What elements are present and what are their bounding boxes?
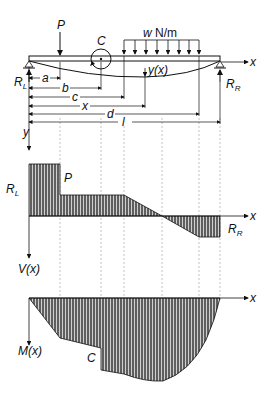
moment-x-axis-label: x — [249, 291, 257, 305]
shear-point-load-label: P — [64, 171, 72, 185]
distributed-load — [124, 40, 199, 54]
dim-l-label: l — [122, 115, 125, 129]
left-reaction-label: RL — [14, 75, 27, 91]
dim-b-label: b — [62, 81, 69, 95]
moment-couple-label: C — [87, 351, 96, 365]
couple-label: C — [97, 34, 106, 48]
shear-y-axis-label: V(x) — [18, 262, 40, 276]
left-support — [23, 61, 35, 82]
beam-diagram: a b c x d l P C w N/m y(x) x y RL RR RL … — [0, 0, 269, 400]
shear-right-reaction-label: RR — [228, 222, 243, 238]
moment-y-axis-label: M(x) — [18, 344, 42, 358]
dim-x-label: x — [81, 99, 89, 113]
beam-y-axis-label: y — [22, 125, 30, 139]
dim-a-label: a — [42, 71, 49, 85]
dim-c-label: c — [72, 90, 78, 104]
shear-left-reaction-label: RL — [6, 182, 19, 198]
dimension-lines — [29, 56, 220, 124]
dim-d-label: d — [107, 107, 114, 121]
point-load-label: P — [57, 18, 65, 32]
shear-x-axis-label: x — [249, 209, 257, 223]
load-w-label: w — [143, 26, 153, 40]
right-reaction-label: RR — [226, 77, 241, 93]
beam-x-axis-label: x — [249, 55, 257, 69]
moment-diagram: x M(x) C — [18, 291, 257, 381]
beam: a b c x d l P C w N/m y(x) x y RL RR — [14, 18, 257, 150]
load-units-label: N/m — [155, 26, 177, 40]
deflection-label: y(x) — [147, 63, 168, 77]
shear-diagram: RL P x RR V(x) — [6, 164, 257, 276]
right-support — [214, 61, 226, 82]
